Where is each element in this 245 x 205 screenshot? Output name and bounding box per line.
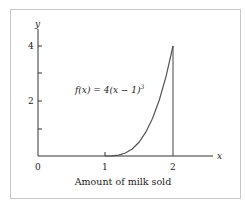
y-tick-label-4: 4 [28,41,34,51]
y-axis-label: y [34,19,41,29]
x-tick-label-0: 0 [35,162,41,172]
chart-canvas: y x 4 2 0 1 2 f(x) = 4(x − 1)3 Amount of… [0,0,245,205]
formula-main: f(x) = 4(x − 1) [74,85,141,95]
function-annotation: f(x) = 4(x − 1)3 [74,83,145,95]
formula-exponent: 3 [141,83,145,90]
x-axis-label: x [217,151,222,161]
x-axis-caption: Amount of milk sold [74,176,172,187]
x-tick-label-1: 1 [102,162,108,172]
y-tick-label-2: 2 [28,96,34,106]
x-tick-label-2: 2 [170,162,176,172]
function-curve [105,46,173,156]
